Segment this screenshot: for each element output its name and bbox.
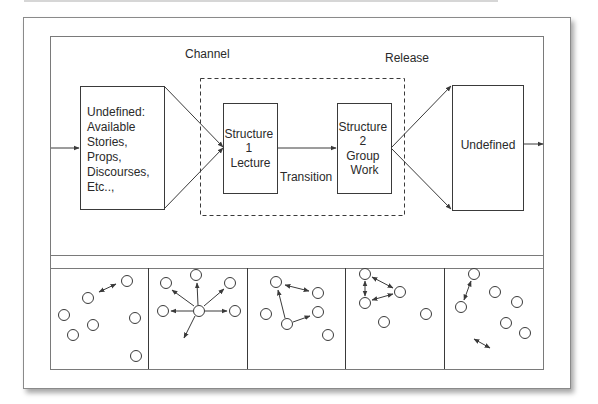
panel-2-hub-lecture bbox=[158, 270, 241, 339]
panel-3-partial-links bbox=[261, 277, 334, 341]
release-arrow-top bbox=[391, 86, 451, 148]
panel-4-small-group bbox=[360, 269, 432, 328]
resources-line: Props, bbox=[87, 150, 122, 164]
panel-1-scattered bbox=[59, 276, 142, 362]
structure-2-line: Structure bbox=[338, 120, 387, 134]
structure-1-line: 1 bbox=[245, 141, 252, 155]
release-arrow-bottom bbox=[391, 148, 451, 209]
resources-line: Etc.., bbox=[87, 180, 114, 194]
structure-2-line: 2 bbox=[359, 134, 366, 148]
structure-2-line: Work bbox=[351, 163, 380, 177]
channel-arrow-top bbox=[164, 86, 223, 147]
undefined-outcome-label: Undefined bbox=[461, 138, 516, 152]
resources-line: Available bbox=[87, 120, 136, 134]
flow-diagram: Channel Release Undefined: Available Sto… bbox=[0, 0, 598, 404]
resources-line: Undefined: bbox=[87, 105, 145, 119]
structure-1-line: Lecture bbox=[230, 156, 270, 170]
resources-line: Stories, bbox=[87, 135, 128, 149]
release-label: Release bbox=[385, 51, 429, 65]
resources-line: Discourses, bbox=[87, 165, 150, 179]
panel-5-dispersal bbox=[456, 269, 531, 349]
transition-label: Transition bbox=[280, 170, 332, 184]
channel-arrow-bottom bbox=[164, 148, 223, 209]
structure-1-line: Structure bbox=[224, 127, 273, 141]
channel-label: Channel bbox=[185, 47, 230, 61]
structure-2-line: Group bbox=[346, 149, 380, 163]
panel-dividers bbox=[149, 268, 445, 369]
